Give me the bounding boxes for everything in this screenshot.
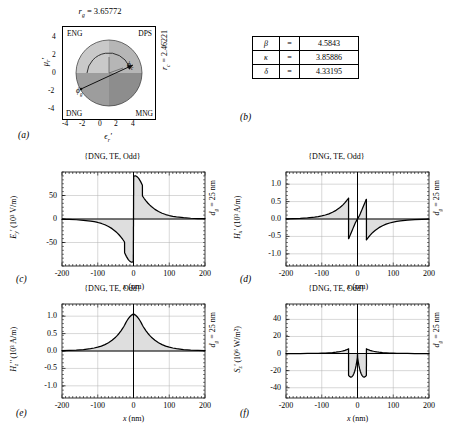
y-axis-label: Hx' (10³ A/m) (233, 177, 244, 257)
xtick-label: 200 (415, 401, 443, 410)
xtick-label: 100 (155, 401, 183, 410)
panel-b-parameter-table: β=4.5843κ=3.85886δ=4.33195 (b) (252, 36, 359, 79)
panel-a-svg (63, 27, 155, 119)
panel-f-plot: {DNG, TE, Odd}-200-1000100200-40-2002040… (224, 282, 449, 432)
panel-label-b: (b) (240, 112, 251, 122)
panel-label-f: (f) (240, 408, 249, 418)
xtick-label: -200 (48, 269, 76, 278)
panel-a-constitutive-plane: rg = 3.65772 (0, 0, 200, 150)
param-value: 4.5843 (300, 37, 359, 51)
quadrant-label-mng: MNG (135, 109, 153, 118)
panel-a-ytick-4: 4 (52, 32, 56, 41)
angle-label-phi-c: ϕc (127, 60, 133, 71)
plot-title: {DNG, TE, Odd} (224, 284, 449, 293)
param-value: 4.33195 (300, 65, 359, 79)
param-value: 3.85886 (300, 51, 359, 65)
right-side-label: dg = 25 nm (208, 180, 219, 215)
panel-a-rg-annotation: rg = 3.65772 (40, 6, 160, 18)
panel-a-ytick-neg4: -4 (48, 104, 54, 113)
param-equals: = (280, 65, 300, 79)
panel-a-xtick-0: 0 (98, 119, 102, 128)
param-symbol: δ (253, 65, 280, 79)
right-side-label: dg = 25 nm (208, 312, 219, 347)
xtick-label: 0 (120, 401, 148, 410)
xtick-label: 200 (191, 269, 219, 278)
panel-a-xtick-neg4: -4 (62, 119, 68, 128)
x-axis-label: x (nm) (286, 414, 429, 423)
plot-title: {DNG, TE, Odd} (0, 152, 225, 161)
xtick-label: 0 (344, 269, 372, 278)
right-side-label: dg = 25 nm (432, 180, 443, 215)
quadrant-label-dps: DPS (138, 29, 152, 38)
param-equals: = (280, 37, 300, 51)
panel-d-plot: {DNG, TE, Odd}-200-1000100200-1.0-0.50.0… (224, 150, 449, 300)
xtick-label: -200 (48, 401, 76, 410)
plot-title: {DNG, TE, Odd} (0, 284, 225, 293)
panel-a-xtick-4: 4 (131, 119, 135, 128)
table-row: κ=3.85886 (253, 51, 359, 65)
table-row: δ=4.33195 (253, 65, 359, 79)
xtick-label: 100 (155, 269, 183, 278)
parameter-table: β=4.5843κ=3.85886δ=4.33195 (252, 36, 359, 79)
panel-a-ylabel: μr' (40, 58, 51, 66)
xtick-label: 0 (120, 269, 148, 278)
panel-e-plot: {DNG, TE, Odd}-200-1000100200-1.0-0.50.0… (0, 282, 225, 432)
panel-a-xtick-2: 2 (114, 119, 118, 128)
panel-label-a: (a) (18, 130, 29, 140)
xtick-label: 100 (379, 401, 407, 410)
xtick-label: -100 (84, 401, 112, 410)
panel-a-xlabel: ϵr' (62, 131, 154, 143)
figure-root: rg = 3.65772 (0, 0, 449, 434)
param-symbol: κ (253, 51, 280, 65)
panel-a-plot-box: ENG DPS DNG MNG ϕc ϕg (62, 26, 156, 120)
xtick-label: 200 (415, 269, 443, 278)
panel-c-plot: {DNG, TE, Odd}-200-1000100200-50050x (nm… (0, 150, 225, 300)
panel-a-xtick-neg2: -2 (79, 119, 85, 128)
panel-a-ytick-2: 2 (52, 50, 56, 59)
quadrant-label-dng: DNG (66, 109, 82, 118)
param-equals: = (280, 51, 300, 65)
panel-a-ytick-0: 0 (52, 68, 56, 77)
xtick-label: -100 (308, 269, 336, 278)
y-axis-label: Sz' (10⁶ W/m²) (233, 309, 244, 389)
xtick-label: 200 (191, 401, 219, 410)
x-axis-label: x (nm) (62, 414, 205, 423)
panel-label-e: (e) (16, 408, 27, 418)
y-axis-label: Hz'' (10³ A/m) (9, 309, 20, 389)
table-row: β=4.5843 (253, 37, 359, 51)
panel-a-ytick-neg2: -2 (48, 86, 54, 95)
quadrant-label-eng: ENG (67, 29, 82, 38)
xtick-label: -100 (84, 269, 112, 278)
right-side-label: dg = 25 nm (432, 312, 443, 347)
xtick-label: 100 (379, 269, 407, 278)
y-axis-label: Ey' (10³ V/m) (9, 177, 20, 257)
xtick-label: -100 (308, 401, 336, 410)
xtick-label: -200 (272, 401, 300, 410)
param-symbol: β (253, 37, 280, 51)
panel-a-rc-annotation: rc = 2.46221 (160, 30, 171, 70)
angle-label-phi-g: ϕg (76, 86, 82, 97)
xtick-label: 0 (344, 401, 372, 410)
xtick-label: -200 (272, 269, 300, 278)
plot-title: {DNG, TE, Odd} (224, 152, 449, 161)
